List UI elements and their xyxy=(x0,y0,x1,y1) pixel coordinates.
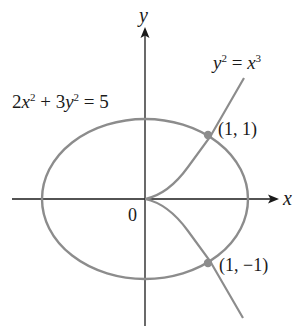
point-1-neg1 xyxy=(204,259,212,267)
cusp-eq-x-exp: 3 xyxy=(256,52,262,64)
ellipse-eq-x-exp: 2 xyxy=(30,91,36,103)
ellipse-equation-label: 2x2 + 3y2 = 5 xyxy=(12,92,109,111)
point-label-1-1: (1, 1) xyxy=(218,120,257,138)
origin-label: 0 xyxy=(128,206,137,224)
cusp-eq-eq: = xyxy=(227,52,247,73)
ellipse-eq-y: y xyxy=(65,91,73,112)
x-axis-label: x xyxy=(283,188,292,208)
ellipse-eq-b: + 3 xyxy=(40,91,65,112)
y-axis-label: y xyxy=(139,5,148,25)
point-1-1 xyxy=(204,131,212,139)
diagram-canvas xyxy=(0,0,294,330)
ellipse-eq-y-exp: 2 xyxy=(74,91,80,103)
cusp-equation-label: y2 = x3 xyxy=(213,53,261,72)
cusp-eq-x: x xyxy=(247,52,255,73)
point-label-1-neg1: (1, −1) xyxy=(219,256,268,274)
ellipse-eq-rhs: = 5 xyxy=(84,91,109,112)
ellipse-eq-x: x xyxy=(22,91,30,112)
ellipse-eq-a: 2 xyxy=(12,91,22,112)
